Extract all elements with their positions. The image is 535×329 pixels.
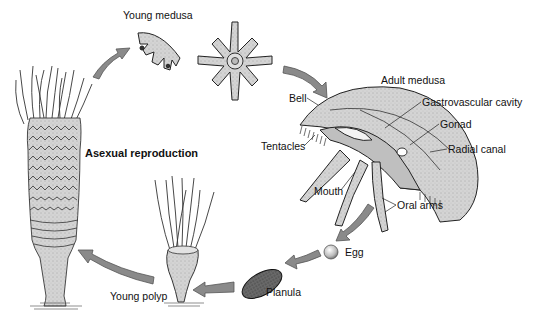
- label-radial-canal: Radial canal: [448, 144, 506, 155]
- egg-illustration: [324, 245, 338, 259]
- label-young-polyp: Young polyp: [110, 291, 167, 302]
- label-planula: Planula: [266, 287, 301, 298]
- strobila-illustration: [16, 66, 92, 309]
- young-medusa-fragment: [138, 33, 180, 70]
- adult-medusa-illustration: [300, 87, 478, 232]
- label-young-medusa: Young medusa: [123, 10, 193, 21]
- life-cycle-diagram: Young medusa Adult medusa Bell Gastrovas…: [0, 0, 535, 329]
- arrow-strobila-to-young-medusa: [93, 48, 130, 79]
- arrow-egg-to-planula: [285, 250, 321, 269]
- label-tentacles: Tentacles: [261, 141, 305, 152]
- arrow-planula-to-polyp: [193, 282, 234, 297]
- young-medusa-ephyra: [198, 22, 272, 100]
- label-adult-medusa: Adult medusa: [381, 75, 445, 86]
- planula-illustration: [237, 263, 286, 304]
- label-gonad: Gonad: [440, 119, 472, 130]
- label-bell: Bell: [289, 93, 307, 104]
- label-egg: Egg: [345, 247, 364, 258]
- label-oral-arms: Oral arms: [397, 200, 443, 211]
- label-gastrovascular-cavity: Gastrovascular cavity: [422, 97, 522, 108]
- label-asexual-reproduction: Asexual reproduction: [85, 148, 198, 159]
- label-mouth: Mouth: [314, 186, 343, 197]
- arrow-polyp-to-strobila: [78, 250, 154, 284]
- diagram-illustration: [0, 0, 535, 329]
